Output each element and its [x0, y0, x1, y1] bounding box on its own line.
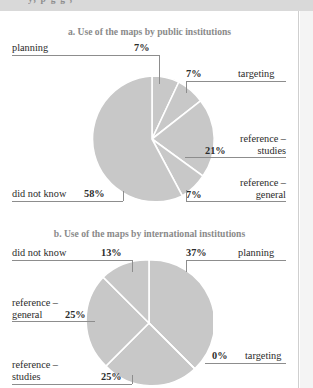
leader-vline-b-planning: [186, 260, 187, 272]
leader-vline-a-did-not-know: [123, 191, 124, 201]
chart-a-label-reference-general: reference – general: [206, 177, 286, 200]
label-pct: 25%: [101, 371, 122, 382]
label-text: planning: [12, 42, 48, 53]
label-pct: 13%: [101, 247, 122, 258]
page-frame-shadow: [300, 11, 313, 388]
chart-b-label-reference-general: reference – general: [12, 297, 58, 320]
chart-b-label-targeting: targeting: [245, 350, 281, 362]
label-pct: 21%: [205, 145, 226, 156]
label-pct: 7%: [134, 42, 149, 53]
label-text-line2: general: [12, 309, 58, 321]
chart-b-value-did-not-know: 13%: [101, 247, 122, 259]
chart-b-label-reference-studies: reference – studies: [12, 359, 58, 382]
chart-b-value-reference-general: 25%: [65, 309, 86, 321]
chart-a-value-reference-general: 7%: [186, 189, 201, 201]
label-pct: 0%: [212, 350, 227, 361]
label-text-line1: reference –: [12, 297, 58, 309]
label-pct: 7%: [186, 189, 201, 200]
chart-a-label-did-not-know: did not know: [12, 188, 66, 200]
label-text: targeting: [245, 350, 281, 361]
chart-a-value-targeting: 7%: [186, 68, 201, 80]
label-text-line1: reference –: [12, 359, 58, 371]
label-text-line2: general: [206, 189, 286, 201]
leader-vline-b-did-not-know: [132, 260, 133, 272]
leader-underline-a-targeting: [186, 81, 286, 82]
chart-a-title: a. Use of the maps by public institution…: [0, 26, 299, 37]
leader-underline-a-did-not-know: [12, 201, 123, 202]
leader-underline-b-targeting: [205, 363, 286, 364]
leader-underline-b-reference-studies: [12, 384, 132, 385]
running-head-text: y, p g g ,: [28, 0, 283, 4]
leader-underline-a-reference-studies: [195, 157, 286, 158]
leader-underline-a-reference-general: [186, 201, 286, 202]
leader-vline-b-reference-studies: [132, 375, 133, 384]
chart-b-label-planning: planning: [238, 247, 274, 259]
leader-underline-b-did-not-know: [12, 260, 132, 261]
label-text-line1: reference –: [206, 177, 286, 189]
running-head-band: y, p g g ,: [0, 0, 313, 11]
leader-underline-a-planning: [12, 55, 159, 56]
chart-a-pie: [88, 75, 216, 203]
label-pct: 58%: [84, 188, 105, 199]
leader-vline-a-reference-general: [186, 190, 187, 201]
label-text: did not know: [12, 188, 66, 199]
chart-b-label-did-not-know: did not know: [12, 247, 66, 259]
figure-page: y, p g g , a. Use of the maps by public …: [0, 0, 313, 388]
chart-b-value-targeting: 0%: [212, 350, 227, 362]
label-pct: 37%: [186, 247, 207, 258]
label-text-line1: reference –: [206, 133, 286, 145]
leader-underline-b-reference-general: [12, 321, 95, 322]
leader-vline-a-planning: [159, 55, 160, 84]
label-text: targeting: [238, 68, 274, 79]
label-pct: 25%: [65, 309, 86, 320]
leader-vline-a-targeting: [186, 81, 187, 93]
label-text-line2: studies: [12, 371, 58, 383]
chart-b-value-reference-studies: 25%: [101, 371, 122, 383]
chart-a-value-reference-studies: 21%: [205, 145, 226, 157]
label-text: planning: [238, 247, 274, 258]
chart-b-value-planning: 37%: [186, 247, 207, 259]
chart-a-label-planning: planning: [12, 42, 48, 54]
chart-a-value-planning: 7%: [134, 42, 149, 54]
leader-underline-b-planning: [186, 260, 286, 261]
chart-a-value-did-not-know: 58%: [84, 188, 105, 200]
chart-b-pie: [85, 259, 213, 387]
chart-a-label-targeting: targeting: [238, 68, 274, 80]
label-pct: 7%: [186, 68, 201, 79]
leader-stub-a-reference-studies: [185, 157, 196, 158]
chart-b-title: b. Use of the maps by international inst…: [0, 228, 299, 239]
label-text: did not know: [12, 247, 66, 258]
